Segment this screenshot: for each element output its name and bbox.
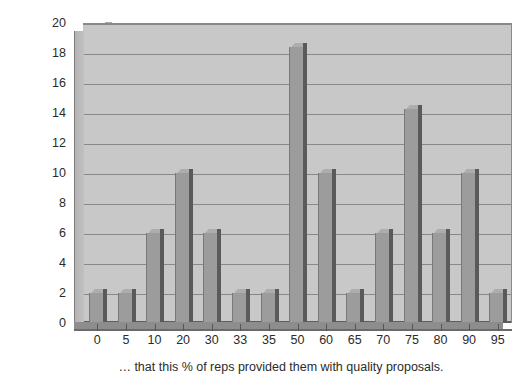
y-tick-label: 20	[38, 16, 66, 30]
x-tick-label: 33	[225, 333, 255, 347]
bar[interactable]	[261, 293, 275, 323]
x-tick-label: 50	[283, 333, 313, 347]
bar-slot	[398, 23, 427, 323]
x-tick-mark	[212, 324, 213, 331]
x-tick-label: 75	[397, 333, 427, 347]
bar-slot	[340, 23, 369, 323]
bar-side-face	[303, 43, 307, 323]
x-tick-label: 5	[111, 333, 141, 347]
x-tick-label: 60	[311, 333, 341, 347]
bar[interactable]	[432, 233, 446, 323]
y-axis-tick-labels: 02468101214161820	[38, 23, 66, 323]
x-tick-mark	[126, 324, 127, 331]
bar-slot	[255, 23, 284, 323]
y-tick-label: 2	[38, 286, 66, 300]
y-tick-label: 18	[38, 46, 66, 60]
bar[interactable]	[203, 233, 217, 323]
bar-side-face	[103, 289, 107, 323]
bar[interactable]	[404, 109, 418, 324]
bar-slot	[226, 23, 255, 323]
plot-3d-shell	[74, 23, 512, 331]
x-tick-mark	[498, 324, 499, 331]
x-tick-mark	[155, 324, 156, 331]
bar-side-face	[446, 229, 450, 323]
bar[interactable]	[232, 293, 246, 323]
bar-side-face	[189, 169, 193, 323]
x-tick-mark	[469, 324, 470, 331]
bar-slot	[483, 23, 512, 323]
bar-chart: This % of buyers said… 02468101214161820…	[0, 0, 532, 389]
bar-slot	[197, 23, 226, 323]
x-tick-mark	[269, 324, 270, 331]
x-tick-mark	[441, 324, 442, 331]
bar[interactable]	[375, 233, 389, 323]
bar-side-face	[389, 229, 393, 323]
y-tick-label: 4	[38, 256, 66, 270]
bar[interactable]	[118, 293, 132, 323]
bar-side-face	[132, 289, 136, 323]
y-tick-label: 0	[38, 316, 66, 330]
x-tick-mark	[383, 324, 384, 331]
x-tick-label: 90	[454, 333, 484, 347]
x-tick-label: 70	[368, 333, 398, 347]
y-tick-label: 8	[38, 196, 66, 210]
bar-slot	[369, 23, 398, 323]
y-tick-label: 14	[38, 106, 66, 120]
bar-slot	[140, 23, 169, 323]
bar-side-face	[217, 229, 221, 323]
bar[interactable]	[489, 293, 503, 323]
bar-slot	[455, 23, 484, 323]
bar[interactable]	[146, 233, 160, 323]
x-tick-mark	[298, 324, 299, 331]
y-tick-label: 10	[38, 166, 66, 180]
x-tick-label: 10	[140, 333, 170, 347]
x-tick-mark	[240, 324, 241, 331]
bar[interactable]	[461, 173, 475, 323]
x-tick-label: 20	[168, 333, 198, 347]
bar-side-face	[246, 289, 250, 323]
x-tick-mark	[97, 324, 98, 331]
y-tick-label: 16	[38, 76, 66, 90]
bar[interactable]	[289, 47, 303, 323]
bar[interactable]	[175, 173, 189, 323]
x-tick-label: 65	[340, 333, 370, 347]
x-tick-mark	[326, 324, 327, 331]
bar-side-face	[332, 169, 336, 323]
bars-layer	[83, 23, 512, 323]
bar[interactable]	[89, 293, 103, 323]
bar-side-face	[275, 289, 279, 323]
x-tick-label: 80	[426, 333, 456, 347]
bar-slot	[83, 23, 112, 323]
plot-left-wall	[74, 31, 84, 323]
x-tick-label: 0	[82, 333, 112, 347]
y-tick-label: 6	[38, 226, 66, 240]
bar-slot	[312, 23, 341, 323]
x-axis-title: … that this % of reps provided them with…	[0, 360, 532, 374]
bar[interactable]	[346, 293, 360, 323]
plot-floor-front-edge	[74, 329, 512, 331]
bar-side-face	[160, 229, 164, 323]
y-tick-label: 12	[38, 136, 66, 150]
x-tick-mark	[183, 324, 184, 331]
x-tick-label: 95	[483, 333, 513, 347]
x-tick-label: 30	[197, 333, 227, 347]
bar-slot	[283, 23, 312, 323]
bar-side-face	[503, 289, 507, 323]
bar-slot	[112, 23, 141, 323]
bar-slot	[169, 23, 198, 323]
bar-slot	[426, 23, 455, 323]
bar-side-face	[475, 169, 479, 323]
x-tick-mark	[355, 324, 356, 331]
x-axis-tick-labels: 0510203033355060657075809095	[83, 333, 512, 353]
bar-side-face	[360, 289, 364, 323]
x-tick-label: 35	[254, 333, 284, 347]
x-tick-mark	[412, 324, 413, 331]
bar-side-face	[418, 105, 422, 324]
bar[interactable]	[318, 173, 332, 323]
